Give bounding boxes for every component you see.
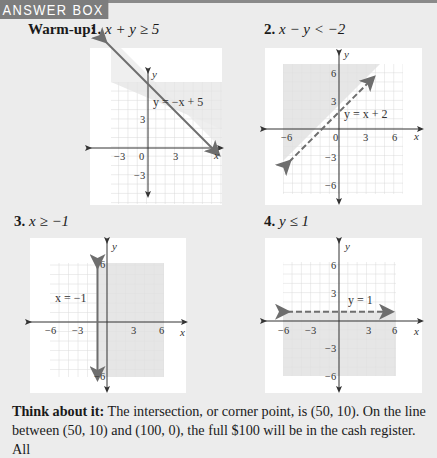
svg-text:−6: −6 bbox=[94, 371, 105, 382]
svg-text:−3: −3 bbox=[325, 343, 336, 354]
think-about-it-lead: Think about it: bbox=[12, 403, 104, 419]
graph-3-plot: y x −6 −3 3 6 6 −6 x = −1 bbox=[30, 238, 186, 393]
svg-text:x: x bbox=[413, 325, 419, 337]
line-equation-label: y = −x + 5 bbox=[153, 95, 203, 109]
svg-text:6: 6 bbox=[392, 325, 397, 336]
svg-text:3: 3 bbox=[331, 288, 336, 299]
graph-1: y x −3 0 3 3 −3 y = −x + 5 bbox=[90, 48, 222, 205]
svg-text:−3: −3 bbox=[325, 152, 336, 163]
svg-text:x: x bbox=[179, 326, 185, 338]
graph-1-plot: y x −3 0 3 3 −3 y = −x + 5 bbox=[90, 48, 222, 205]
graph-4-plot: y x −6 −3 3 6 6 3 −3 −6 y = 1 bbox=[265, 238, 422, 393]
svg-text:3: 3 bbox=[331, 96, 336, 107]
problem-inequality: x + y ≥ 5 bbox=[105, 21, 159, 37]
problem-number: 2. bbox=[264, 21, 275, 37]
y-axis-label: y bbox=[151, 68, 157, 80]
problem-inequality: x ≥ −1 bbox=[29, 213, 69, 229]
svg-text:3: 3 bbox=[363, 132, 368, 143]
svg-text:3: 3 bbox=[366, 325, 371, 336]
svg-text:−6: −6 bbox=[45, 325, 56, 336]
svg-text:y: y bbox=[111, 240, 117, 252]
graph-4: y x −6 −3 3 6 6 3 −3 −6 y = 1 bbox=[265, 238, 422, 393]
problem-inequality: y ≤ 1 bbox=[279, 213, 309, 229]
svg-text:0: 0 bbox=[139, 151, 144, 162]
svg-text:−6: −6 bbox=[325, 180, 336, 191]
problem-number: 3. bbox=[14, 213, 25, 229]
svg-text:3: 3 bbox=[173, 151, 178, 162]
line-equation-label: y = x + 2 bbox=[344, 107, 388, 121]
svg-text:6: 6 bbox=[100, 259, 105, 270]
problem-4-label: 4. y ≤ 1 bbox=[264, 213, 309, 230]
svg-text:0: 0 bbox=[333, 132, 338, 143]
svg-text:−3: −3 bbox=[114, 151, 125, 162]
graph-3: y x −6 −3 3 6 6 −6 x = −1 bbox=[30, 238, 186, 393]
problem-number: 1. bbox=[90, 21, 101, 37]
svg-text:y: y bbox=[344, 240, 350, 252]
warmup-title: Warm-up: bbox=[28, 21, 96, 37]
svg-text:6: 6 bbox=[159, 325, 164, 336]
svg-text:3: 3 bbox=[140, 114, 145, 125]
line-equation-label: x = −1 bbox=[55, 291, 87, 305]
problem-3-label: 3. x ≥ −1 bbox=[14, 213, 69, 230]
problem-1-label: 1. x + y ≥ 5 bbox=[90, 21, 159, 38]
problem-2-label: 2. x − y < −2 bbox=[264, 21, 345, 38]
warmup-label: Warm-up: bbox=[28, 21, 96, 38]
svg-text:−3: −3 bbox=[134, 170, 145, 181]
problem-inequality: x − y < −2 bbox=[279, 21, 345, 37]
svg-text:−3: −3 bbox=[72, 325, 83, 336]
svg-text:−6: −6 bbox=[281, 132, 292, 143]
svg-text:x: x bbox=[413, 130, 419, 142]
line-equation-label: y = 1 bbox=[348, 293, 373, 307]
svg-text:6: 6 bbox=[331, 260, 336, 271]
problem-number: 4. bbox=[264, 213, 275, 229]
graph-2-plot: y x −6 0 3 6 6 3 −3 −6 y = x + 2 bbox=[265, 48, 422, 205]
think-about-it: Think about it: The intersection, or cor… bbox=[12, 402, 432, 458]
svg-text:−3: −3 bbox=[305, 325, 316, 336]
svg-text:6: 6 bbox=[331, 68, 336, 79]
svg-text:−6: −6 bbox=[325, 371, 336, 382]
svg-text:6: 6 bbox=[392, 132, 397, 143]
svg-text:−6: −6 bbox=[278, 325, 289, 336]
graph-2: y x −6 0 3 6 6 3 −3 −6 y = x + 2 bbox=[265, 48, 422, 205]
svg-text:y: y bbox=[343, 48, 349, 60]
x-axis-label: x bbox=[213, 149, 219, 161]
svg-text:3: 3 bbox=[131, 325, 136, 336]
answer-box-header: ANSWER BOX bbox=[0, 0, 108, 19]
